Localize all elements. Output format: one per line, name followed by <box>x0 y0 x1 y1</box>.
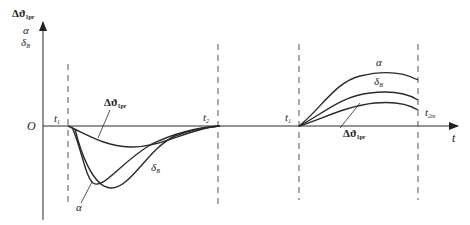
right-curve-label-alpha: α <box>376 57 382 68</box>
time-mark-t2m: t2m <box>425 107 435 119</box>
y-axis-label-delta-b: δB <box>21 37 30 49</box>
origin-label: O <box>27 120 36 132</box>
right-delta-theta-curve <box>299 102 418 126</box>
left-delta-b-curve <box>75 126 220 188</box>
right-delta-theta-leader <box>340 103 360 128</box>
left-alpha-leader <box>81 182 92 203</box>
left-curve-label-delta-theta: Δϑ1pr <box>104 97 127 109</box>
left-curve-label-alpha: α <box>76 202 82 213</box>
right-curve-label-delta-b: δB <box>374 76 383 88</box>
right-curve-label-delta-theta: Δϑ1pr <box>343 128 366 140</box>
left-curve-label-delta-b: δB <box>151 162 160 174</box>
y-axis-label-delta-theta: Δϑ1pr <box>12 8 35 20</box>
left-alpha-curve <box>72 126 220 184</box>
time-mark-t1-left: t1 <box>54 113 60 125</box>
time-mark-t2: t2 <box>203 112 209 124</box>
left-delta-theta-leader <box>98 110 110 138</box>
time-mark-t1-right: t1 <box>285 112 291 124</box>
y-axis-label-alpha: α <box>23 25 29 36</box>
x-axis-label-t: t <box>452 132 455 144</box>
response-diagram <box>0 0 470 225</box>
right-alpha-curve <box>299 73 418 126</box>
